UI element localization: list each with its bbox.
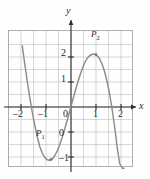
y-tick-label-neg2: –1: [59, 153, 69, 163]
y-tick-label-neg1: 0: [59, 128, 64, 138]
x-tick-label-pos1: 1: [93, 109, 98, 119]
x-tick-label-neg1: –1: [38, 109, 48, 119]
y-axis-arrow: [69, 20, 74, 25]
y-tick-label-pos2: 2: [61, 48, 66, 58]
point-label-p2-sub: 2: [97, 34, 100, 41]
x-tick-label-pos2: 2: [118, 109, 123, 119]
x-axis-arrow: [131, 105, 136, 110]
point-marker-p1: [50, 158, 53, 161]
point-label-p2: P2: [91, 30, 100, 41]
point-marker-p2: [95, 53, 98, 56]
y-tick-label-pos1: 1: [61, 74, 66, 84]
y-axis-label: y: [66, 6, 70, 16]
x-tick-label-neg2: –2: [13, 109, 23, 119]
x-tick-label-zero: 0: [63, 109, 68, 119]
plot-canvas: [0, 0, 150, 179]
graph-figure: y x –2 –1 0 1 2 2 1 0 –1 P1 P2: [0, 0, 150, 179]
point-label-p1-sub: 1: [42, 133, 45, 140]
point-label-p1: P1: [36, 129, 45, 140]
x-axis-label: x: [139, 101, 143, 111]
